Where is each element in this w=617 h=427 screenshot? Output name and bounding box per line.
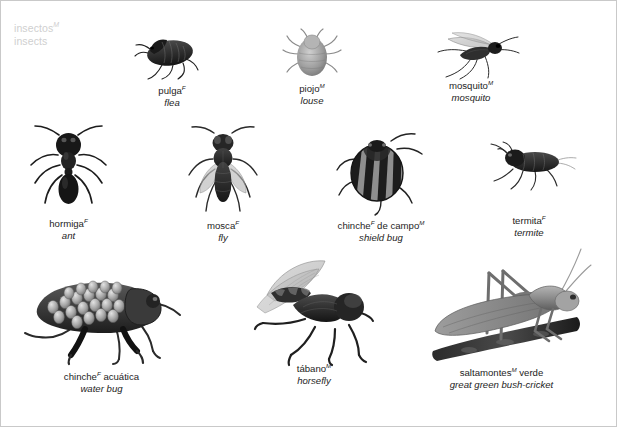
caption-shield-bug-english: shield bug [338,232,425,244]
shield-bug-illustration [333,125,429,215]
caption-termite: termitaF termite [512,215,545,240]
ant-illustration [21,123,116,215]
caption-fly-spanish: moscaF [207,220,239,232]
caption-water-bug-english: water bug [64,383,139,395]
horsefly-illustration [249,255,379,367]
plate-title-spanish-text: insectos [14,22,53,34]
mosquito-illustration [416,23,526,81]
caption-horsefly: tábanoM horsefly [297,363,332,388]
water-bug-illustration [19,263,184,365]
figure-horsefly: tábanoM horsefly [249,255,379,367]
plate-title: insectosM insects [14,21,59,48]
figure-louse: piojoM louse [279,27,345,81]
caption-ant: hormigaF ant [49,218,87,243]
caption-water-bug: chincheF acuática water bug [64,371,139,396]
figure-termite: termitaF termite [479,141,579,213]
caption-bush-cricket: saltamontesM verde great green bush-cric… [450,367,553,392]
caption-ant-spanish: hormigaF [49,218,87,230]
flea-illustration [126,29,218,81]
fly-illustration [173,125,273,215]
caption-shield-bug: chincheF de campoM shield bug [338,220,425,245]
figure-bush-cricket: saltamontesM verde great green bush-cric… [409,247,594,367]
figure-ant: hormigaF ant [21,123,116,215]
caption-flea: pulgaF flea [158,85,185,110]
caption-termite-spanish: termitaF [512,215,545,227]
caption-louse: piojoM louse [299,83,324,108]
bush-cricket-illustration [409,247,594,367]
caption-flea-spanish: pulgaF [158,85,185,97]
caption-flea-english: flea [158,97,185,109]
figure-water-bug: chincheF acuática water bug [19,263,184,365]
caption-bush-cricket-english: great green bush-cricket [450,379,553,391]
figure-shield-bug: chincheF de campoM shield bug [333,125,429,215]
caption-louse-spanish: piojoM [299,83,324,95]
louse-illustration [279,27,345,81]
insects-plate: insectosM insects [0,0,617,427]
plate-title-english: insects [14,35,59,48]
caption-louse-english: louse [299,95,324,107]
caption-ant-english: ant [49,230,87,242]
caption-horsefly-spanish: tábanoM [297,363,332,375]
caption-shield-bug-spanish: chincheF de campoM [338,220,425,232]
caption-bush-cricket-spanish: saltamontesM verde [450,367,553,379]
termite-illustration [479,141,579,213]
caption-termite-english: termite [512,227,545,239]
plate-title-spanish: insectosM [14,21,59,35]
caption-water-bug-spanish: chincheF acuática [64,371,139,383]
plate-title-gender: M [53,21,59,28]
figure-mosquito: mosquitoM mosquito [416,23,526,81]
caption-fly: moscaF fly [207,220,239,245]
figure-flea: pulgaF flea [126,29,218,81]
caption-mosquito-spanish: mosquitoM [449,80,493,92]
caption-fly-english: fly [207,232,239,244]
caption-mosquito-english: mosquito [449,92,493,104]
caption-horsefly-english: horsefly [297,375,332,387]
caption-mosquito: mosquitoM mosquito [449,80,493,105]
figure-fly: moscaF fly [173,125,273,215]
